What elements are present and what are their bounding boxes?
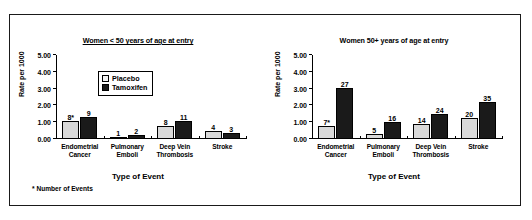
bar-placebo: 14 [413,124,430,139]
bar-placebo: 4 [205,131,222,139]
category-label: EndometrialCancer [56,143,104,160]
bar-tamoxifen: 2 [128,135,145,139]
x-tick [246,136,247,140]
chart-title-under-50: Women < 50 years of age at entry [10,36,266,45]
bar-pair: 7*27 [312,55,360,139]
bar-value-label: 16 [388,115,396,122]
bar-value-label: 20 [465,111,473,118]
category-label-line: Pulmonary [360,143,408,151]
category-labels-50-plus: EndometrialCancerPulmonaryEmboliDeep Vei… [312,143,502,160]
bar-pair: 811 [151,55,199,139]
y-tick-label: 3.00 [293,85,307,92]
figure-root: Women < 50 years of age at entry Rate pe… [0,0,532,220]
bar-pair: 43 [199,55,247,139]
category-label: Stroke [199,143,247,160]
bar-group: 811 [151,55,199,139]
category-label-line: Stroke [455,143,503,151]
legend-label-tamoxifen: Tamoxifen [112,83,147,92]
bar-tamoxifen: 16 [384,122,401,139]
bar-placebo: 5 [366,134,383,139]
bar-group: 12 [104,55,152,139]
y-tick-label: 5.00 [37,52,51,59]
category-labels-under-50: EndometrialCancerPulmonaryEmboliDeep Vei… [56,143,246,160]
bar-tamoxifen: 35 [479,102,496,139]
bar-value-label: 14 [418,117,426,124]
bar-placebo: 8* [62,121,79,139]
x-axis-label: Type of Event [10,172,266,181]
bar-groups-under-50: 8*91281143 [56,55,246,139]
bar-value-label: 27 [341,81,349,88]
bar-value-label: 2 [134,128,138,135]
chart-title-text: Women 50+ years of age at entry [340,36,449,45]
category-label: PulmonaryEmboli [104,143,152,160]
legend-swatch-tamoxifen-icon [102,84,109,91]
category-label: Deep VeinThrombosis [151,143,199,160]
bar-value-label: 5 [372,127,376,134]
bar-group: 1424 [407,55,455,139]
bar-group: 8*9 [56,55,104,139]
bar-value-label: 8* [67,114,74,121]
bar-tamoxifen: 27 [336,88,353,139]
bar-value-label: 7* [323,119,330,126]
figure-frame: Women < 50 years of age at entry Rate pe… [9,14,521,206]
bar-value-label: 3 [229,126,233,133]
bar-pair: 12 [104,55,152,139]
bar-value-label: 9 [87,110,91,117]
category-label-line: Endometrial [312,143,360,151]
category-label-line: Cancer [56,151,104,159]
bar-group: 2035 [455,55,503,139]
category-label-line: Emboli [360,151,408,159]
category-label-line: Deep Vein [151,143,199,151]
bar-placebo: 7* [318,126,335,139]
category-label: EndometrialCancer [312,143,360,160]
category-label: PulmonaryEmboli [360,143,408,160]
bar-value-label: 35 [483,95,491,102]
bar-tamoxifen: 11 [175,121,192,139]
bar-group: 516 [360,55,408,139]
category-label-line: Stroke [199,143,247,151]
y-tick-label: 2.00 [37,102,51,109]
bar-groups-50-plus: 7*2751614242035 [312,55,502,139]
bar-group: 43 [199,55,247,139]
legend-swatch-placebo-icon [102,75,109,82]
y-tick-label: 4.00 [293,68,307,75]
legend-item-placebo: Placebo [102,74,147,83]
bar-placebo: 8 [157,126,174,139]
chart-panel-50-plus: Women 50+ years of age at entry Rate per… [266,15,522,207]
category-label-line: Endometrial [56,143,104,151]
y-tick-label: 4.00 [37,68,51,75]
bar-pair: 2035 [455,55,503,139]
chart-title-text: Women < 50 years of age at entry [83,36,194,45]
bar-pair: 1424 [407,55,455,139]
chart-legend: Placebo Tamoxifen [98,71,153,96]
y-axis-label: Rate per 1000 [18,51,25,97]
bar-pair: 516 [360,55,408,139]
legend-item-tamoxifen: Tamoxifen [102,83,147,92]
y-tick-label: 3.00 [37,85,51,92]
bar-value-label: 24 [436,107,444,114]
bar-pair: 8*9 [56,55,104,139]
bar-group: 7*27 [312,55,360,139]
y-tick-label: 0.00 [293,136,307,143]
bar-tamoxifen: 9 [80,117,97,139]
bar-value-label: 4 [211,124,215,131]
bar-placebo: 1 [110,137,127,139]
category-label-line: Cancer [312,151,360,159]
bar-placebo: 20 [461,118,478,139]
category-label-line: Deep Vein [407,143,455,151]
bar-tamoxifen: 24 [431,114,448,139]
bar-value-label: 8 [164,119,168,126]
category-label-line: Thrombosis [151,151,199,159]
category-label-line: Pulmonary [104,143,152,151]
figure-footnote: * Number of Events [32,185,93,192]
x-tick [502,136,503,140]
category-label-line: Thrombosis [407,151,455,159]
y-tick-label: 2.00 [293,102,307,109]
category-label-line: Emboli [104,151,152,159]
category-label: Deep VeinThrombosis [407,143,455,160]
y-tick-label: 0.00 [37,136,51,143]
y-tick-label: 5.00 [293,52,307,59]
y-tick-label: 1.00 [37,119,51,126]
chart-title-50-plus: Women 50+ years of age at entry [266,36,522,45]
chart-panel-under-50: Women < 50 years of age at entry Rate pe… [10,15,266,207]
